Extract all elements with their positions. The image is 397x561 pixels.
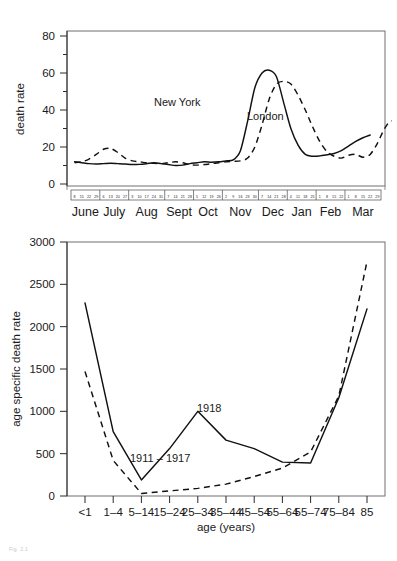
y-axis-ticks-major	[60, 242, 67, 496]
week-tick-label: 30	[253, 195, 257, 199]
week-tick-label: 24	[152, 195, 156, 199]
week-tick-label: 14	[267, 195, 271, 199]
week-tick-label: 6	[102, 195, 104, 199]
month-label: Nov	[229, 205, 252, 219]
x-axis-tick-labels: <11–45–1415–2425–3435–4445–5455–6455–747…	[78, 506, 373, 518]
week-tick-label: 28	[282, 195, 286, 199]
week-tick-label: 7	[167, 195, 169, 199]
y-tick-label: 0	[49, 490, 55, 502]
x-tick-label: <1	[78, 506, 91, 518]
week-tick-label: 15	[361, 195, 365, 199]
y-axis-tick-labels: 500100015002000250030000	[29, 236, 55, 502]
y-tick-label: 60	[42, 67, 55, 79]
week-tick-label: 3	[131, 195, 133, 199]
week-tick-label: 26	[217, 195, 221, 199]
week-tick-label: 2	[225, 195, 227, 199]
week-tick-label: 28	[188, 195, 192, 199]
y-tick-label: 80	[42, 30, 55, 42]
week-tick-label: 19	[209, 195, 213, 199]
series-annotation-1918: 1918	[197, 402, 221, 414]
series-annotation-1911-1917: 1911 – 1917	[130, 452, 190, 464]
week-tick-label: 22	[339, 195, 343, 199]
week-tick-label: 20	[116, 195, 120, 199]
series-line-1918	[85, 303, 367, 480]
series-annotation-new-york: New York	[154, 96, 201, 108]
week-tick-label: 10	[137, 195, 141, 199]
series-annotation-london: London	[247, 110, 284, 122]
week-tick-label: 9	[232, 195, 234, 199]
week-tick-label: 1	[348, 195, 350, 199]
x-tick-label: 1–4	[104, 506, 124, 518]
week-tick-label: 16	[238, 195, 242, 199]
y-tick-label: 1500	[29, 363, 55, 375]
y-tick-label: 500	[36, 448, 55, 460]
month-label: Aug	[136, 205, 158, 219]
x-tick-label: 85	[361, 506, 374, 518]
x-tick-label: 5–14	[129, 506, 155, 518]
y-axis-ticks-major	[60, 36, 67, 184]
week-tick-label: 4	[290, 195, 292, 199]
month-label: July	[103, 205, 126, 219]
y-tick-label: 20	[42, 141, 55, 153]
week-tick-label: 13	[109, 195, 113, 199]
week-tick-label: 5	[196, 195, 198, 199]
week-tick-label: 21	[181, 195, 185, 199]
week-tick-label: 29	[94, 195, 98, 199]
y-tick-label: 40	[42, 104, 55, 116]
age-specific-death-rate-svg: 500100015002000250030000 age specific de…	[0, 228, 397, 540]
y-axis-title: age specific death rate	[10, 311, 22, 427]
week-tick-label: 14	[173, 195, 177, 199]
week-tick-label: 25	[310, 195, 314, 199]
week-tick-label: 22	[87, 195, 91, 199]
week-tick-label: 15	[332, 195, 336, 199]
y-axis-group: 80 60 40 20 0 death rate	[14, 30, 67, 190]
week-tick-label: 8	[355, 195, 357, 199]
week-tick-label: 31	[159, 195, 163, 199]
y-tick-label: 2500	[29, 278, 55, 290]
month-label: Oct	[198, 205, 218, 219]
y-tick-label: 0	[49, 178, 55, 190]
week-tick-label: 11	[296, 195, 300, 199]
week-tick-label: 18	[303, 195, 307, 199]
y-tick-label: 1000	[29, 405, 55, 417]
y-tick-label: 3000	[29, 236, 55, 248]
month-label: June	[72, 205, 99, 219]
chart-age-specific-death-rate: 500100015002000250030000 age specific de…	[0, 228, 397, 540]
week-tick-label: 23	[246, 195, 250, 199]
series-line-london	[75, 81, 392, 165]
y-axis-title: death rate	[14, 83, 26, 135]
week-tick-label: 27	[123, 195, 127, 199]
week-tick-label: 21	[274, 195, 278, 199]
x-axis-group: <11–45–1415–2425–3435–4445–5455–6455–747…	[78, 496, 373, 533]
week-tick-strip: 8152229613202731017243171421285121926291…	[67, 186, 385, 200]
month-label: Sept	[166, 205, 192, 219]
series-group	[85, 261, 367, 493]
month-label: Dec	[262, 205, 284, 219]
month-labels-group: JuneJulyAugSeptOctNovDecJanFebMar	[72, 205, 374, 219]
x-tick-label: 75–84	[323, 506, 356, 518]
week-tick-label: 7	[261, 195, 263, 199]
series-line-new-york	[75, 70, 371, 165]
week-tick-label: 15	[80, 195, 84, 199]
week-tick-label: 12	[202, 195, 206, 199]
x-axis-title: age (years)	[197, 521, 255, 533]
figure-container: 80 60 40 20 0 death rate 815222961320273…	[0, 0, 397, 561]
figure-caption-artifact: Fig. 2.1	[9, 546, 28, 552]
series-line-1911-1917	[85, 261, 367, 493]
week-tick-label: 1	[319, 195, 321, 199]
weekly-death-rate-svg: 80 60 40 20 0 death rate 815222961320273…	[0, 4, 397, 226]
plot-area-border	[67, 242, 385, 496]
series-group	[75, 70, 392, 165]
month-label: Feb	[320, 205, 342, 219]
week-tick-label: 22	[368, 195, 372, 199]
chart-weekly-death-rate: 80 60 40 20 0 death rate 815222961320273…	[0, 4, 397, 226]
month-label: Jan	[292, 205, 312, 219]
y-tick-label: 2000	[29, 321, 55, 333]
y-axis-group: 500100015002000250030000 age specific de…	[10, 236, 67, 502]
x-axis-ticks	[85, 496, 367, 503]
week-tick-label: 8	[326, 195, 328, 199]
month-label: Mar	[352, 205, 374, 219]
week-tick-label: 8	[74, 195, 76, 199]
week-tick-label: 29	[375, 195, 379, 199]
week-tick-label: 17	[145, 195, 149, 199]
